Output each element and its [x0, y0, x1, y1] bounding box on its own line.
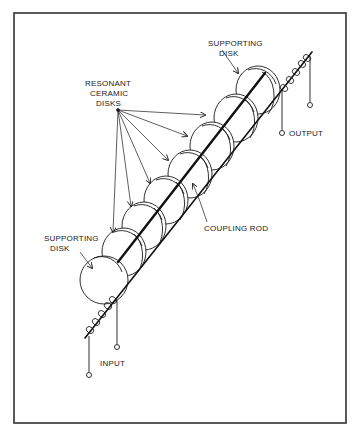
label-supporting-disk-top-1: SUPPORTING [208, 39, 263, 48]
label-coupling-rod: COUPLING ROD [204, 224, 268, 233]
label-supporting-disk-bottom-2: DISK [50, 244, 70, 253]
coupling-rod [118, 73, 265, 262]
label-input: INPUT [100, 359, 125, 368]
mechanical-filter-diagram: SUPPORTING DISK RESONANT CERAMIC DISKS O… [0, 0, 352, 434]
label-output: OUTPUT [289, 129, 323, 138]
label-resonant-1: RESONANT [85, 79, 131, 88]
input-terminal-2 [87, 373, 92, 378]
output-terminal-2 [308, 103, 313, 108]
input-terminal-1 [115, 345, 120, 350]
label-supporting-disk-bottom-1: SUPPORTING [44, 234, 99, 243]
output-terminals [280, 56, 313, 136]
label-resonant-3: DISKS [96, 99, 121, 108]
output-terminal-1 [280, 131, 285, 136]
label-resonant-2: CERAMIC [90, 89, 128, 98]
supporting-disk-bottom [80, 256, 128, 304]
label-supporting-disk-top-2: DISK [219, 49, 239, 58]
